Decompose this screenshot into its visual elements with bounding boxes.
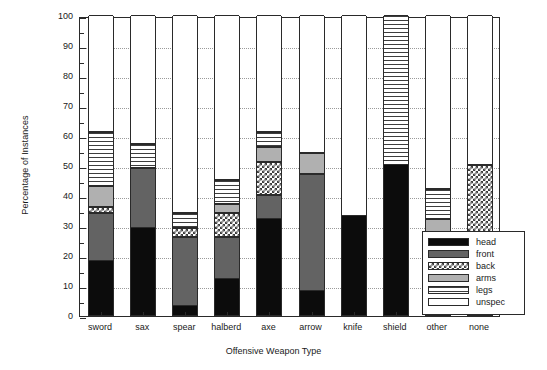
y-axis-minor-tick bbox=[80, 303, 84, 304]
x-axis-tick bbox=[312, 312, 313, 317]
bar-sword bbox=[88, 16, 114, 316]
y-axis-tick-label: 70 bbox=[33, 102, 73, 111]
bar-segment-sax-front bbox=[131, 168, 155, 228]
y-axis-title: Percentage of Instances bbox=[20, 55, 30, 275]
bar-segment-spear-legs bbox=[173, 213, 197, 228]
bar-segment-knife-head bbox=[342, 216, 366, 315]
bar-segment-sword-unspec bbox=[89, 15, 113, 132]
bar-segment-none-unspec bbox=[468, 15, 492, 165]
y-axis-minor-tick bbox=[80, 243, 84, 244]
y-axis-tick bbox=[80, 288, 86, 289]
x-axis-tick bbox=[185, 312, 186, 317]
legend-label-head: head bbox=[476, 238, 496, 247]
bar-segment-shield-head bbox=[384, 165, 408, 315]
bar-segment-other-legs bbox=[426, 189, 450, 219]
legend-label-front: front bbox=[476, 250, 494, 259]
legend-label-legs: legs bbox=[476, 286, 493, 295]
segment-divider bbox=[257, 131, 281, 132]
bar-segment-axe-legs bbox=[257, 132, 281, 147]
legend-swatch-unspec bbox=[428, 298, 469, 306]
legend-swatch-legs bbox=[428, 286, 469, 294]
y-axis-tick-label: 30 bbox=[33, 222, 73, 231]
y-axis-tick bbox=[80, 108, 86, 109]
bar-arrow bbox=[299, 16, 325, 316]
y-axis-minor-tick bbox=[80, 123, 84, 124]
segment-divider bbox=[173, 305, 197, 306]
segment-divider bbox=[426, 188, 450, 189]
bar-segment-axe-front bbox=[257, 195, 281, 219]
legend-label-unspec: unspec bbox=[476, 298, 505, 307]
y-axis-tick bbox=[80, 198, 86, 199]
y-axis-tick-label: 80 bbox=[33, 72, 73, 81]
bar-segment-other-unspec bbox=[426, 15, 450, 189]
segment-divider bbox=[300, 152, 324, 153]
bar-segment-axe-arms bbox=[257, 147, 281, 162]
segment-divider bbox=[89, 260, 113, 261]
bar-axe bbox=[256, 16, 282, 316]
y-axis-minor-tick bbox=[80, 93, 84, 94]
legend-item-front: front bbox=[428, 248, 519, 260]
segment-divider bbox=[215, 278, 239, 279]
y-axis-tick bbox=[80, 78, 86, 79]
bar-sax bbox=[130, 16, 156, 316]
segment-divider bbox=[342, 215, 366, 216]
legend-swatch-back bbox=[428, 262, 469, 270]
bar-segment-halberd-unspec bbox=[215, 15, 239, 180]
y-axis-minor-tick bbox=[80, 273, 84, 274]
segment-divider bbox=[426, 218, 450, 219]
y-axis-tick bbox=[80, 258, 86, 259]
chart-legend: headfrontbackarmslegsunspec bbox=[422, 231, 525, 315]
segment-divider bbox=[173, 236, 197, 237]
bar-segment-shield-legs bbox=[384, 15, 408, 165]
x-axis-tick bbox=[143, 312, 144, 317]
y-axis-minor-tick bbox=[80, 213, 84, 214]
segment-divider bbox=[215, 179, 239, 180]
legend-item-arms: arms bbox=[428, 272, 519, 284]
segment-divider bbox=[300, 290, 324, 291]
y-axis-tick-label: 0 bbox=[33, 312, 73, 321]
bar-segment-axe-head bbox=[257, 219, 281, 315]
x-axis-tick bbox=[227, 312, 228, 317]
segment-divider bbox=[384, 164, 408, 165]
x-axis-label-none: none bbox=[444, 322, 514, 332]
bar-segment-halberd-head bbox=[215, 279, 239, 315]
bar-segment-spear-front bbox=[173, 237, 197, 306]
y-axis-tick-label: 90 bbox=[33, 42, 73, 51]
y-axis-tick-label: 10 bbox=[33, 282, 73, 291]
bar-segment-sax-head bbox=[131, 228, 155, 315]
segment-divider bbox=[89, 185, 113, 186]
bar-segment-sword-legs bbox=[89, 132, 113, 186]
bar-segment-halberd-back bbox=[215, 213, 239, 237]
legend-item-legs: legs bbox=[428, 284, 519, 296]
segment-divider bbox=[215, 236, 239, 237]
y-axis-tick-label: 100 bbox=[33, 12, 73, 21]
bar-segment-arrow-unspec bbox=[300, 15, 324, 153]
segment-divider bbox=[257, 194, 281, 195]
bar-shield bbox=[383, 16, 409, 316]
bar-segment-arrow-front bbox=[300, 174, 324, 291]
segment-divider bbox=[468, 164, 492, 165]
bar-segment-axe-back bbox=[257, 162, 281, 195]
y-axis-tick bbox=[80, 138, 86, 139]
bar-segment-sword-arms bbox=[89, 186, 113, 207]
y-axis-tick bbox=[80, 18, 86, 19]
x-axis-tick bbox=[101, 312, 102, 317]
y-axis-tick-label: 40 bbox=[33, 192, 73, 201]
segment-divider bbox=[257, 218, 281, 219]
bar-segment-sword-front bbox=[89, 213, 113, 261]
legend-swatch-head bbox=[428, 238, 469, 246]
segment-divider bbox=[131, 167, 155, 168]
bar-segment-sax-unspec bbox=[131, 15, 155, 144]
segment-divider bbox=[257, 161, 281, 162]
segment-divider bbox=[257, 146, 281, 147]
segment-divider bbox=[131, 227, 155, 228]
segment-divider bbox=[89, 212, 113, 213]
y-axis-tick-label: 20 bbox=[33, 252, 73, 261]
y-axis-minor-tick bbox=[80, 153, 84, 154]
bar-spear bbox=[172, 16, 198, 316]
bar-knife bbox=[341, 16, 367, 316]
segment-divider bbox=[89, 131, 113, 132]
legend-label-arms: arms bbox=[476, 274, 496, 283]
bar-halberd bbox=[214, 16, 240, 316]
legend-item-back: back bbox=[428, 260, 519, 272]
